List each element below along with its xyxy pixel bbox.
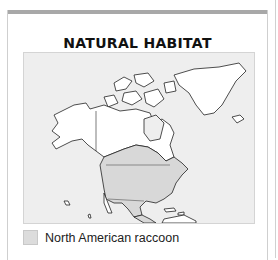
legend-swatch-raccoon — [23, 230, 38, 245]
card-title: NATURAL HABITAT — [8, 35, 267, 51]
legend-label-raccoon: North American raccoon — [45, 231, 179, 245]
north-america-map-icon — [24, 53, 254, 223]
card-top-bar — [8, 10, 267, 14]
map-legend: North American raccoon — [23, 230, 179, 245]
habitat-card: NATURAL HABITAT — [7, 10, 268, 260]
habitat-map — [23, 52, 255, 224]
side-divider — [275, 0, 276, 258]
